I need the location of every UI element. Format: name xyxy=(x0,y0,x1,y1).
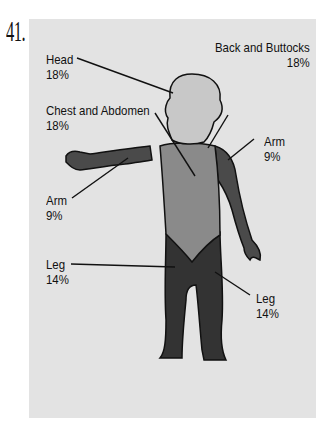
arm-extended xyxy=(66,146,152,170)
label-arm-left: Arm 9% xyxy=(46,193,67,223)
label-back-buttocks: Back and Buttocks 18% xyxy=(215,40,310,70)
head xyxy=(165,74,222,144)
label-chest-abdomen: Chest and Abdomen 18% xyxy=(46,103,150,133)
arm-hanging xyxy=(215,146,261,260)
label-head: Head 18% xyxy=(46,52,73,82)
label-leg-right: Leg 14% xyxy=(256,291,279,321)
label-arm-right: Arm 9% xyxy=(264,134,285,164)
label-leg-left: Leg 14% xyxy=(46,257,69,287)
